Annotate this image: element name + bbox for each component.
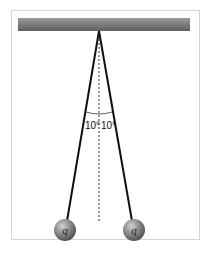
ceiling-bar xyxy=(18,18,190,31)
pendulum-diagram: 10° 10° q q xyxy=(0,0,210,258)
angle-label-right: 10° xyxy=(101,120,116,131)
angle-label-left: 10° xyxy=(85,120,100,131)
charge-label-right: q xyxy=(131,224,137,236)
charge-label-left: q xyxy=(62,224,68,236)
